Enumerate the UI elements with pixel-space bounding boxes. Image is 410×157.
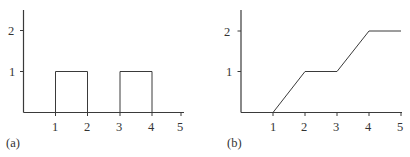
y-tick-label-2-b: 2: [224, 25, 230, 39]
x-tick-label-2-a: 2: [84, 120, 90, 134]
x-tick-label-2-b: 2: [301, 120, 307, 134]
x-tick-label-5-a: 5: [177, 120, 183, 134]
panel-a: 2 1 1 2 3 4 5 (a): [6, 10, 184, 150]
x-tick-label-5-b: 5: [397, 120, 403, 134]
figure: 2 1 1 2 3 4 5 (a) 2 1 1 2 3 4 5: [0, 0, 410, 157]
x-tick-label-1-b: 1: [270, 120, 276, 134]
x-tick-label-4-a: 4: [148, 120, 155, 134]
panel-label-b: (b): [227, 136, 242, 150]
x-tick-label-3-b: 3: [333, 120, 339, 134]
panel-b: 2 1 1 2 3 4 5 (b): [224, 10, 403, 150]
y-tick-label-1-b: 1: [226, 65, 232, 79]
x-tick-label-4-b: 4: [365, 120, 372, 134]
x-tick-label-1-a: 1: [52, 120, 58, 134]
y-tick-label-1-a: 1: [9, 65, 15, 79]
x-tick-label-3-a: 3: [116, 120, 122, 134]
y-tick-label-2-a: 2: [8, 24, 14, 38]
panel-label-a: (a): [6, 136, 20, 150]
accumulation-curve: [273, 31, 401, 113]
pulse-2: [120, 72, 152, 113]
pulse-1: [56, 72, 88, 113]
